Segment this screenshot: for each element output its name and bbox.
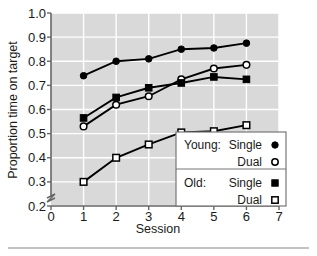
data-point	[145, 93, 152, 100]
y-tick-label: 0.8	[28, 54, 46, 69]
x-tick-label: 2	[113, 209, 120, 224]
legend-condition-label: Dual	[237, 193, 262, 207]
data-point	[113, 58, 120, 65]
data-point	[80, 72, 87, 79]
x-tick-label: 1	[80, 209, 87, 224]
y-tick-label: 0.7	[28, 78, 46, 93]
chart-legend: Young:SingleDualOld:SingleDual	[176, 132, 286, 207]
legend-condition-label: Dual	[237, 155, 262, 169]
data-point	[211, 74, 218, 81]
data-point	[145, 141, 152, 148]
data-point	[243, 62, 250, 69]
data-point	[243, 122, 250, 129]
data-point	[211, 65, 218, 72]
data-point	[243, 40, 250, 47]
y-tick-labels: 0.20.30.40.50.60.70.80.91.0	[28, 6, 51, 214]
legend-condition-label: Single	[229, 176, 263, 190]
data-point	[178, 46, 185, 53]
x-tick-label: 5	[210, 209, 217, 224]
legend-marker-filled-square	[272, 180, 278, 186]
y-tick-label: 0.9	[28, 30, 46, 45]
y-tick-label: 0.5	[28, 126, 46, 141]
data-point	[178, 80, 185, 87]
data-point	[113, 94, 120, 101]
legend-marker-filled-circle	[272, 142, 278, 148]
legend-condition-label: Single	[229, 138, 263, 152]
data-point	[145, 56, 152, 63]
legend-group-label: Young:	[184, 138, 221, 152]
y-tick-label: 0.4	[28, 150, 46, 165]
data-point	[211, 45, 218, 52]
data-point	[80, 123, 87, 130]
data-point	[145, 84, 152, 91]
legend-marker-open-circle	[272, 159, 278, 165]
y-tick-label: 1.0	[28, 6, 46, 21]
legend-marker-open-square	[272, 197, 278, 203]
y-tick-label: 0.2	[28, 199, 46, 214]
line-chart: 0.20.30.40.50.60.70.80.91.0 01234567 Ses…	[0, 0, 317, 256]
data-point	[113, 154, 120, 161]
y-tick-label: 0.3	[28, 174, 46, 189]
data-point	[80, 179, 87, 186]
chart-figure: 0.20.30.40.50.60.70.80.91.0 01234567 Ses…	[0, 0, 317, 256]
legend-group-label: Old:	[184, 176, 206, 190]
data-point	[80, 115, 87, 122]
data-point	[243, 76, 250, 83]
x-tick-label: 0	[47, 209, 54, 224]
data-point	[113, 101, 120, 108]
x-tick-label: 6	[243, 209, 250, 224]
y-axis-title: Proportion time on target	[6, 41, 20, 179]
x-axis-title: Session	[136, 222, 181, 236]
y-tick-label: 0.6	[28, 102, 46, 117]
x-tick-label: 7	[275, 209, 282, 224]
